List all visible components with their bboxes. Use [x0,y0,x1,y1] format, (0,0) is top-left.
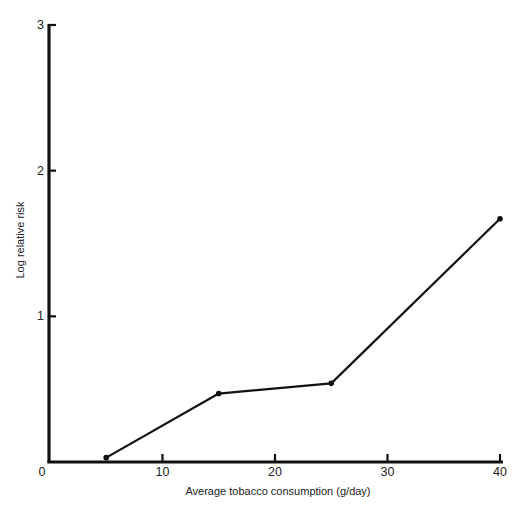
x-tick-label: 40 [493,465,507,479]
x-tick-label: 20 [268,465,282,479]
plot-area [103,216,502,460]
line-chart: 123 10203040 0 Average tobacco consumpti… [0,0,526,513]
y-axis-ticks: 123 [37,18,56,323]
y-tick-label: 3 [37,18,44,32]
data-point-marker [497,216,503,222]
x-axis-ticks: 10203040 [156,454,507,479]
y-axis-title: Log relative risk [14,201,26,279]
data-point-marker [328,381,334,387]
y-tick-label: 2 [37,164,44,178]
x-tick-label: 30 [381,465,395,479]
x-axis-title: Average tobacco consumption (g/day) [185,485,370,497]
x-tick-label: 10 [156,465,170,479]
data-point-marker [216,391,222,397]
data-point-marker [103,455,109,461]
origin-label: 0 [39,465,46,479]
series-line [106,219,500,458]
y-tick-label: 1 [37,309,44,323]
